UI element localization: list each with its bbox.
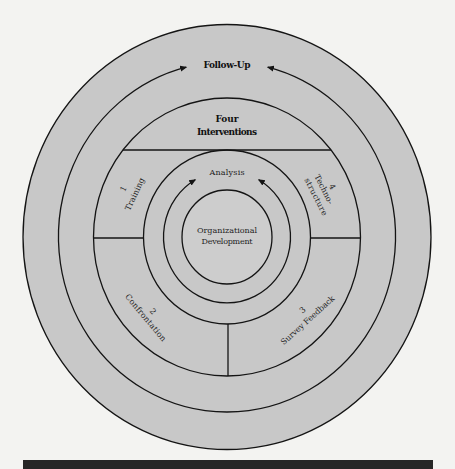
follow-up-label: Follow-Up bbox=[204, 60, 251, 70]
center-label-line2: Development bbox=[202, 237, 254, 246]
caption-bar bbox=[23, 460, 433, 469]
interventions-header-line1: Four bbox=[215, 114, 238, 124]
analysis-label: Analysis bbox=[209, 168, 245, 177]
od-cycle-diagram: Follow-Up Four Interventions Analysis Or… bbox=[0, 0, 455, 469]
interventions-header-line2: Interventions bbox=[197, 127, 257, 137]
center-label-line1: Organizational bbox=[197, 226, 257, 235]
